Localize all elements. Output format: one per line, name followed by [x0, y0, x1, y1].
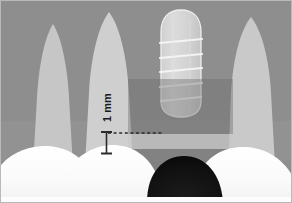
radiograph-image [1, 1, 291, 202]
bone-level-band-overlay [128, 134, 233, 149]
image-baseline-strip [1, 197, 291, 202]
radiograph-figure: 1 mm [0, 0, 292, 203]
